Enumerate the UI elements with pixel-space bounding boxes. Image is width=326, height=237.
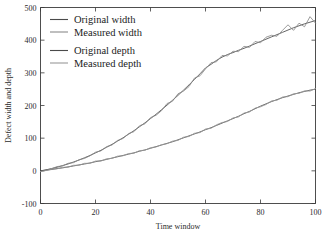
series-line-0 (41, 21, 316, 171)
chart-legend: Original widthMeasured widthOriginal dep… (50, 14, 143, 69)
y-tick-label: 200 (25, 102, 37, 111)
series-line-1 (41, 17, 316, 172)
legend-label-2: Original depth (74, 45, 136, 56)
x-axis-title: Time window (156, 222, 201, 231)
data-series-group (41, 17, 316, 172)
y-tick-label: 100 (25, 134, 37, 143)
x-tick-label: 80 (257, 208, 265, 217)
x-tick-label: 60 (202, 208, 210, 217)
plot-canvas: -1000100200300400500 020406080100 Time w… (0, 0, 326, 237)
legend-label-3: Measured depth (74, 58, 142, 69)
legend-label-0: Original width (74, 14, 136, 25)
y-tick-label: 500 (25, 4, 37, 13)
x-tick-label: 0 (39, 208, 43, 217)
y-tick-label: 400 (25, 36, 37, 45)
y-tick-label: 300 (25, 69, 37, 78)
x-tick-label: 20 (92, 208, 100, 217)
y-axis-title: Defect width and depth (4, 68, 13, 143)
chart-figure: -1000100200300400500 020406080100 Time w… (0, 0, 326, 237)
x-axis-ticks: 020406080100 (39, 8, 322, 217)
legend-label-1: Measured width (74, 27, 143, 38)
y-tick-label: 0 (33, 167, 37, 176)
y-axis-ticks: -1000100200300400500 (22, 4, 316, 209)
y-tick-label: -100 (22, 200, 37, 209)
x-tick-label: 40 (147, 208, 155, 217)
x-tick-label: 100 (310, 208, 322, 217)
